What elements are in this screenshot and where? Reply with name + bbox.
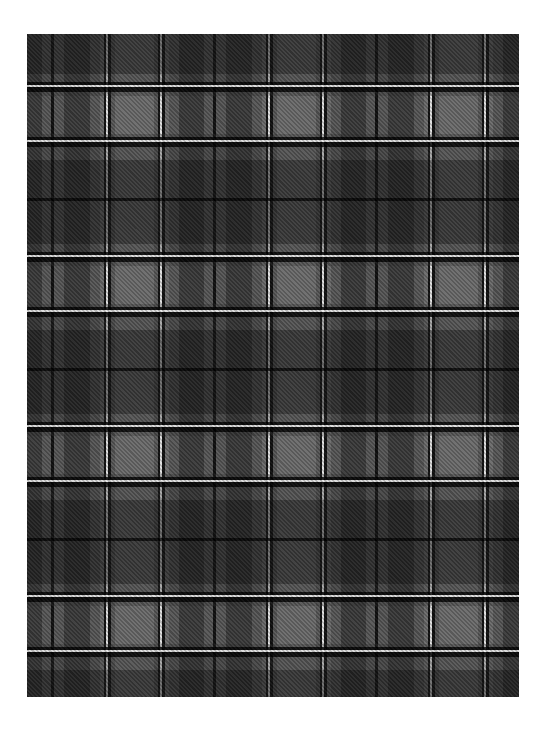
tartan-fabric-swatch [27, 34, 519, 697]
twill-texture [27, 34, 519, 697]
